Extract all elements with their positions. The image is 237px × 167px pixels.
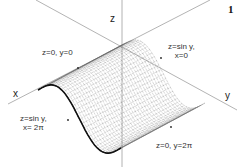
pointer-dot: [67, 119, 69, 121]
boundary-label-line: x= 2π: [20, 123, 47, 132]
boundary-label-x0: z=sin y, x=0: [168, 42, 195, 60]
pointer-dot: [170, 126, 172, 128]
axes: [8, 0, 237, 167]
boundary-label-line: x=0: [168, 51, 195, 60]
boundary-label-line: z=sin y,: [168, 42, 195, 51]
boundary-label-line: z=0, y=0: [42, 48, 73, 57]
boundary-label-y2pi: z=0, y=2π: [156, 141, 192, 150]
z-axis-label: z: [110, 14, 115, 24]
boundary-label-line: z=sin y,: [20, 114, 47, 123]
pointer-dot: [160, 57, 162, 59]
boundary-label-line: z=0, y=2π: [156, 141, 192, 150]
x-axis-label: x: [13, 89, 18, 99]
boundary-label-y0: z=0, y=0: [42, 48, 73, 57]
y-axis-label: y: [225, 91, 230, 101]
surface-diagram: [0, 0, 237, 167]
boundary-label-x2pi: z=sin y, x= 2π: [20, 114, 47, 132]
pointer-dot: [77, 67, 79, 69]
figure-number: 1: [228, 3, 234, 15]
